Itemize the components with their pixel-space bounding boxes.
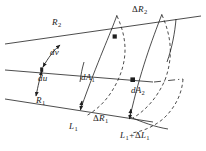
label-R1-base: R — [36, 95, 42, 105]
label-dA1: dA1 — [81, 73, 95, 82]
curve-L1 — [81, 15, 117, 108]
dashed-connector — [154, 79, 183, 82]
label-delta-R1: ΔR1 — [93, 114, 108, 123]
curve-L1-back — [86, 16, 125, 116]
label-dA2-sub: 2 — [142, 89, 145, 96]
label-L1: L1 — [69, 122, 78, 131]
label-du-base: du — [38, 73, 47, 83]
dash-dot-segment — [154, 79, 183, 82]
front-curves — [80, 14, 176, 117]
curve-L1-plus-dL1 — [130, 14, 162, 117]
label-dA1-sub: 1 — [92, 76, 95, 83]
label-L1d-sub2: 1 — [146, 134, 149, 141]
line-R2 — [5, 16, 201, 44]
curve-bottom-sweep — [130, 117, 168, 129]
corner-markers — [113, 34, 135, 82]
label-dv-base: dv — [50, 47, 59, 57]
label-delta-R1-sub: 1 — [105, 117, 108, 124]
label-R2: R2 — [52, 18, 61, 27]
diagram-canvas — [0, 0, 206, 151]
label-delta-R2: ΔR2 — [132, 5, 147, 14]
label-R2-sub: 2 — [58, 21, 61, 28]
marker-corner-middle — [130, 77, 135, 82]
generator-lines — [5, 16, 201, 122]
label-delta-R2-base: R — [138, 4, 144, 14]
label-L1d-sub: 1 — [125, 134, 128, 141]
label-dA1-base: dA — [81, 72, 91, 82]
label-L1-plus-delta-L1: L1+ΔL1 — [120, 131, 150, 140]
label-delta-R2-sub: 2 — [144, 8, 147, 15]
bottom-sweep — [130, 117, 168, 129]
label-L1-sub: 1 — [74, 125, 77, 132]
curve-L1-plus-dL1-back — [133, 15, 170, 118]
label-dA2: dA2 — [131, 86, 145, 95]
label-R1-sub: 1 — [42, 99, 45, 106]
intersection-marks — [40, 67, 43, 71]
label-delta-R1-base: R — [99, 113, 105, 123]
label-dv: dv — [50, 48, 59, 57]
label-R1: R1 — [36, 96, 45, 105]
marker-middle-left — [40, 67, 43, 71]
label-du: du — [38, 74, 47, 83]
label-R2-base: R — [52, 17, 58, 27]
label-dA2-base: dA — [131, 85, 141, 95]
marker-corner-upper — [113, 34, 117, 38]
curve-outer-right — [167, 19, 176, 62]
figure-container: R2 ΔR2 dv du R1 dA1 dA2 L1 ΔR1 L1+ΔL1 — [0, 0, 206, 151]
